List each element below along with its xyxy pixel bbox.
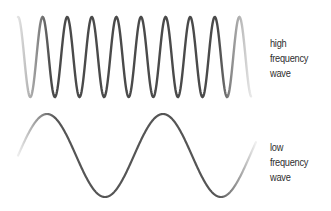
label-line: wave — [270, 170, 308, 185]
high-frequency-wave — [18, 17, 251, 97]
high-frequency-label: high frequency wave — [270, 36, 308, 81]
label-line: low — [270, 140, 308, 155]
low-frequency-wave — [18, 114, 256, 197]
low-frequency-label: low frequency wave — [270, 140, 308, 185]
label-line: high — [270, 36, 308, 51]
wave-frequency-diagram: high frequency wave low frequency wave — [0, 0, 331, 211]
label-line: wave — [270, 66, 308, 81]
label-line: frequency — [270, 155, 308, 170]
label-line: frequency — [270, 51, 308, 66]
